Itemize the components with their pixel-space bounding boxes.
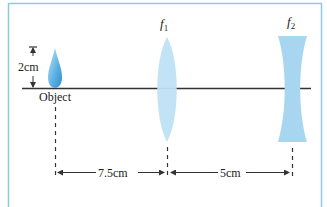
lens2-label: f2 <box>287 14 295 31</box>
convex-lens-f1 <box>157 37 177 142</box>
object-label: Object <box>39 90 72 104</box>
object-drop-icon <box>48 48 62 88</box>
distance-label-2: 5cm <box>220 166 241 180</box>
height-label: 2cm <box>18 60 39 74</box>
lens1-label: f1 <box>160 16 168 33</box>
lens-system-diagram: 2cm Object f1 f2 7.5cm 5cm <box>0 0 327 207</box>
height-marker: 2cm <box>18 47 39 87</box>
dimension-7-5cm: 7.5cm <box>58 166 164 180</box>
distance-label-1: 7.5cm <box>98 166 128 180</box>
dimension-5cm: 5cm <box>171 166 289 180</box>
